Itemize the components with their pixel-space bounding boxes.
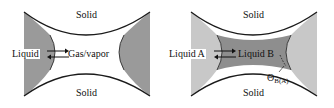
angle-subscript: B(A) <box>274 77 288 85</box>
panel-liquid-gas: Solid Solid Liquid Gas/vapor <box>0 0 167 108</box>
solid-top-label: Solid <box>76 10 97 20</box>
solid-bottom-label: Solid <box>76 88 97 98</box>
liquid-a-label: Liquid A <box>168 49 206 59</box>
solid-bottom-label: Solid <box>243 88 264 98</box>
liquid-label: Liquid <box>11 49 40 59</box>
gas-vapor-label: Gas/vapor <box>68 49 109 59</box>
liquid-a-region-right <box>286 12 317 96</box>
solid-top-label: Solid <box>243 10 264 20</box>
liquid-b-label: Liquid B <box>238 49 274 59</box>
panel-liquid-liquid: Solid Solid Liquid A Liquid B ΘB(A) <box>167 0 334 108</box>
contact-angle-label: ΘB(A) <box>267 73 289 85</box>
